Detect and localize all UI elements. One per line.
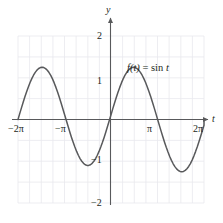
y-tick-label-minus-2: −2 — [91, 198, 102, 208]
plot-canvas — [0, 0, 223, 223]
function-annotation: f(t) = sin t — [127, 63, 169, 74]
function-annotation-arg: (t) — [130, 62, 140, 73]
function-annotation-sin: sin — [151, 62, 163, 73]
y-axis-label: y — [106, 5, 110, 15]
function-annotation-var: t — [163, 62, 169, 73]
y-tick-label-2: 2 — [97, 31, 102, 41]
y-tick-label-1: 1 — [97, 76, 102, 86]
x-tick-label-pi: π — [147, 124, 152, 134]
function-annotation-equals: = — [140, 62, 151, 73]
sine-graph-figure: 2 1 −1 −2 −2π −π π 2π y t f(t) = sin t — [0, 0, 223, 223]
x-tick-label-minus-pi: −π — [55, 124, 66, 134]
x-axis-label: t — [212, 114, 215, 124]
y-tick-label-minus-1: −1 — [91, 155, 102, 165]
x-tick-label-minus-two-pi: −2π — [8, 124, 24, 134]
x-tick-label-two-pi: 2π — [193, 124, 203, 134]
